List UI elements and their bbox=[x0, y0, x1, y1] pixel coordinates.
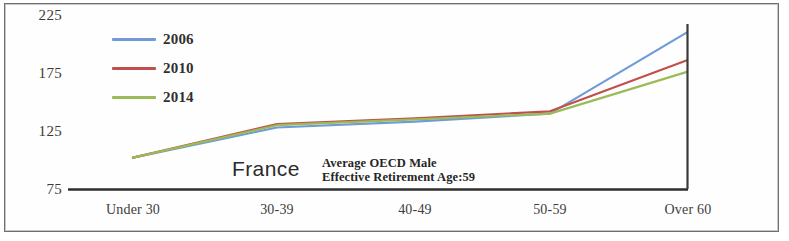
x-axis-tick-under-30: Under 30 bbox=[73, 202, 193, 218]
chart-page: 225 175 125 75 2006 2010 2014 France Ave… bbox=[0, 0, 789, 241]
series-line-2010 bbox=[133, 60, 687, 157]
x-axis-tick-30-39: 30-39 bbox=[217, 202, 337, 218]
series-line-2014 bbox=[133, 72, 687, 158]
series-layer bbox=[133, 32, 687, 157]
x-axis-tick-50-59: 50-59 bbox=[490, 202, 610, 218]
x-axis-tick-40-49: 40-49 bbox=[355, 202, 475, 218]
x-axis-tick-over-60: Over 60 bbox=[628, 202, 748, 218]
